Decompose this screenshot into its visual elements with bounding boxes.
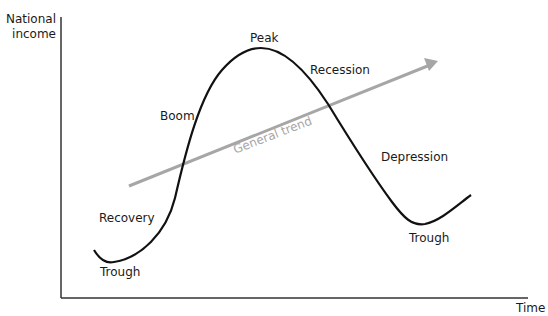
trend-arrow-head-icon <box>424 58 438 71</box>
y-axis-label-line2: income <box>4 27 56 42</box>
y-axis-label: National income <box>4 12 56 42</box>
label-recession: Recession <box>310 63 370 78</box>
label-recovery: Recovery <box>99 211 155 226</box>
label-peak: Peak <box>250 31 279 46</box>
label-trough-left: Trough <box>100 265 140 280</box>
business-cycle-diagram <box>0 0 548 316</box>
label-boom: Boom <box>160 109 195 124</box>
label-trough-right: Trough <box>409 231 449 246</box>
y-axis-label-line1: National <box>4 12 56 27</box>
x-axis-label: Time <box>516 301 545 316</box>
label-depression: Depression <box>381 150 448 165</box>
